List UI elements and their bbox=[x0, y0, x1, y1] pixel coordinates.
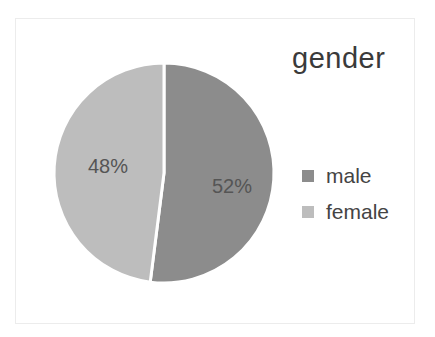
legend-swatch-female bbox=[302, 206, 314, 218]
legend-item-female: female bbox=[302, 194, 389, 230]
chart-title: gender bbox=[292, 42, 385, 75]
data-label-male: 52% bbox=[212, 175, 252, 197]
legend-label-male: male bbox=[326, 164, 372, 188]
legend-item-male: male bbox=[302, 158, 389, 194]
pie-slice-male bbox=[150, 63, 274, 283]
legend-label-female: female bbox=[326, 200, 389, 224]
legend-swatch-male bbox=[302, 170, 314, 182]
data-label-female: 48% bbox=[88, 155, 128, 177]
legend: male female bbox=[302, 158, 389, 230]
